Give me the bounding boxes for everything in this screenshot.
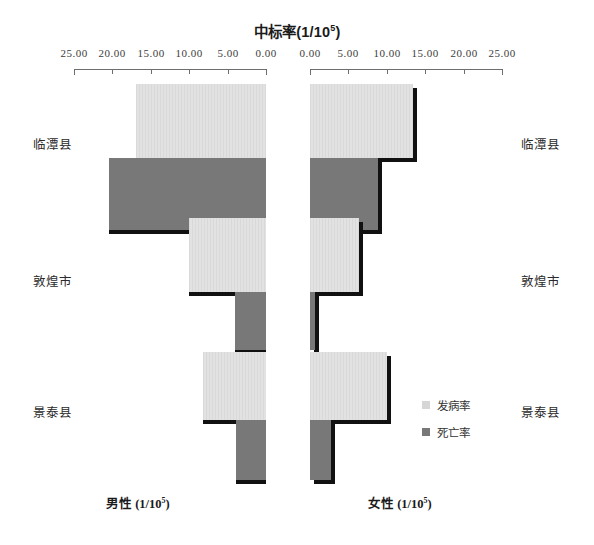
bar-female-incidence-0-side-shadow: [413, 88, 417, 162]
chart-canvas: 中标率(1/105) 25.00 20.00 15.00 10.00 5.00 …: [0, 0, 594, 545]
bar-female-incidence-2: [310, 352, 387, 420]
legend: 发病率 死亡率: [422, 397, 470, 451]
bar-female-incidence-1-side-shadow: [359, 222, 363, 296]
panel-label-female-suffix: ): [428, 497, 432, 511]
left-tick-label-10: 10.00: [168, 47, 210, 59]
left-tick-label-15: 15.00: [130, 47, 172, 59]
right-tick-label-15: 15.00: [404, 47, 446, 59]
panel-label-female: 女性 (1/105): [368, 493, 432, 512]
bar-male-mortality-2-shadow: [236, 480, 266, 484]
right-tick-label-0: 0.00: [289, 47, 331, 59]
panel-label-male-suffix: ): [166, 497, 170, 511]
left-tick-label-20: 20.00: [91, 47, 133, 59]
panel-label-male: 男性 (1/105): [106, 493, 170, 512]
bar-male-incidence-2: [203, 352, 266, 420]
category-label-left-0: 临潭县: [12, 134, 92, 153]
bar-female-incidence-0: [310, 84, 413, 158]
chart-title-suffix: ): [335, 24, 340, 40]
panel-label-male-text: 男性 (1/10: [106, 497, 162, 511]
bar-female-incidence-1-shadow: [314, 292, 363, 296]
legend-item-incidence[interactable]: 发病率: [422, 397, 470, 413]
right-tick-label-10: 10.00: [366, 47, 408, 59]
bar-female-incidence-2-side-shadow: [387, 356, 391, 424]
legend-item-mortality[interactable]: 死亡率: [422, 424, 470, 440]
bar-female-mortality-1-side-shadow: [315, 296, 319, 354]
category-label-left-2: 景泰县: [12, 402, 92, 421]
bar-female-mortality-2: [310, 420, 331, 480]
legend-label-mortality: 死亡率: [437, 424, 470, 440]
legend-swatch-icon-incidence: [422, 401, 430, 409]
right-tick-label-5: 5.00: [327, 47, 369, 59]
panel-label-female-text: 女性 (1/10: [368, 497, 424, 511]
category-label-right-2: 景泰县: [500, 402, 580, 421]
left-tick-label-0: 0.00: [245, 47, 287, 59]
right-tick-label-25: 25.00: [481, 47, 523, 59]
bar-female-incidence-1: [310, 218, 359, 292]
bar-male-mortality-1: [235, 292, 266, 350]
chart-title-text: 中标率(1/10: [254, 24, 331, 40]
category-label-left-1: 敦煌市: [12, 271, 92, 290]
legend-swatch-icon-mortality: [422, 428, 430, 436]
bar-female-mortality-2-side-shadow: [331, 424, 335, 484]
right-tick-label-20: 20.00: [443, 47, 485, 59]
legend-label-incidence: 发病率: [437, 397, 470, 413]
category-label-right-0: 临潭县: [500, 134, 580, 153]
left-tick-label-5: 5.00: [207, 47, 249, 59]
bar-male-mortality-2: [236, 420, 266, 480]
bar-female-mortality-0-side-shadow: [378, 162, 382, 234]
bar-male-incidence-0: [136, 84, 266, 158]
bar-male-incidence-1: [189, 218, 266, 292]
chart-title: 中标率(1/105): [0, 20, 594, 41]
left-tick-label-25: 25.00: [53, 47, 95, 59]
category-label-right-1: 敦煌市: [500, 271, 580, 290]
